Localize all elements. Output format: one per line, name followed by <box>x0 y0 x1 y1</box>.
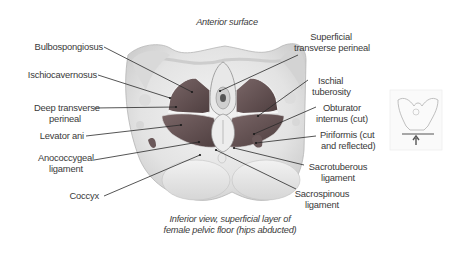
label-ischiocavernosus: Ischiocavernosus <box>28 70 97 81</box>
label-ischial-tuberosity: Ischial tuberosity <box>312 76 351 97</box>
pelvic-floor-diagram: Anterior surface Bulbospongiosus Ischioc… <box>0 0 466 253</box>
label-text: and reflected) <box>320 141 376 152</box>
bottom-caption-line2: female pelvic floor (hips abducted) <box>130 225 330 236</box>
label-superficial-transverse-perineal: Superficial transverse perineal <box>294 32 368 53</box>
label-obturator-internus: Obturator internus (cut) <box>316 103 368 124</box>
label-text: Obturator <box>316 103 368 114</box>
label-text: Coccyx <box>69 191 99 202</box>
label-sacrotuberous-ligament: Sacrotuberous ligament <box>306 162 370 183</box>
label-text: perineal <box>34 114 96 125</box>
label-levator-ani: Levator ani <box>40 131 84 142</box>
label-deep-transverse-perineal: Deep transverse perineal <box>34 103 96 124</box>
label-coccyx: Coccyx <box>69 191 99 202</box>
label-text: Superficial <box>294 32 368 43</box>
label-text: Piriformis (cut <box>320 130 376 141</box>
label-anococcygeal-ligament: Anococcygeal ligament <box>38 153 94 174</box>
bottom-caption: Inferior view, superficial layer of fema… <box>130 214 330 236</box>
label-text: ligament <box>292 200 352 211</box>
label-bulbospongiosus: Bulbospongiosus <box>35 42 103 53</box>
label-text: Deep transverse <box>34 103 96 114</box>
label-text: ligament <box>306 173 370 184</box>
pelvis-view-arrow-icon <box>390 90 442 150</box>
label-text: Bulbospongiosus <box>35 42 103 53</box>
label-text: Anococcygeal <box>38 153 94 164</box>
bottom-caption-line1: Inferior view, superficial layer of <box>130 214 330 225</box>
label-text: Sacrospinous <box>292 189 352 200</box>
label-piriformis: Piriformis (cut and reflected) <box>320 130 376 151</box>
label-text: internus (cut) <box>316 114 368 125</box>
label-text: ligament <box>38 164 94 175</box>
label-text: Levator ani <box>40 131 84 142</box>
label-text: Sacrotuberous <box>306 162 370 173</box>
label-sacrospinous-ligament: Sacrospinous ligament <box>292 189 352 210</box>
label-text: Ischiocavernosus <box>28 70 97 81</box>
label-text: Ischial <box>312 76 351 87</box>
top-caption: Anterior surface <box>172 17 282 28</box>
label-text: tuberosity <box>312 87 351 98</box>
label-text: transverse perineal <box>294 43 368 54</box>
